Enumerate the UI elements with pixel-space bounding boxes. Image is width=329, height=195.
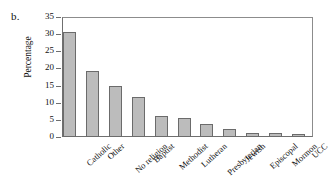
x-axis-tick-labels: CatholicOtherNo religionBaptistMethodist… [62, 137, 313, 195]
bar [155, 116, 168, 137]
bar [223, 129, 236, 137]
y-tick-label: 10 [32, 97, 54, 108]
y-tick-mark [56, 120, 61, 121]
y-tick-label: 30 [32, 28, 54, 39]
y-tick-mark [56, 17, 61, 18]
bar [178, 118, 191, 137]
y-tick-mark [56, 51, 61, 52]
y-tick-label: 20 [32, 62, 54, 73]
y-tick-mark [56, 34, 61, 35]
y-tick-mark [56, 103, 61, 104]
bar [86, 71, 99, 137]
bar [200, 124, 213, 137]
bar [109, 86, 122, 137]
bar [63, 32, 76, 137]
y-tick-mark [56, 86, 61, 87]
y-tick-label: 0 [32, 131, 54, 142]
y-tick-label: 5 [32, 114, 54, 125]
panel-letter-label: b. [11, 10, 20, 22]
y-tick-mark [56, 137, 61, 138]
x-tick-label: Baptist [152, 141, 177, 165]
bar-series [62, 17, 313, 137]
y-tick-label: 25 [32, 45, 54, 56]
y-tick-label: 35 [32, 11, 54, 22]
y-tick-label: 15 [32, 80, 54, 91]
bar [132, 97, 145, 137]
y-tick-mark [56, 68, 61, 69]
x-tick-label: Jewish [243, 141, 267, 164]
